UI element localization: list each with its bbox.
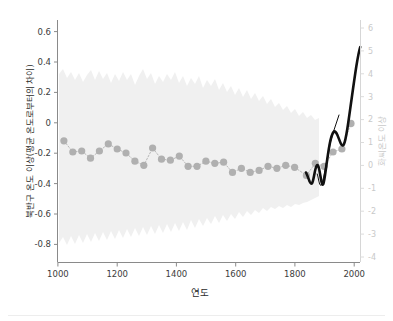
x-tick-label: 1600 (225, 269, 247, 279)
uncertainty-band (59, 69, 319, 245)
x-tick-label: 1200 (106, 269, 128, 279)
y-right-tick-label: 5 (368, 47, 373, 56)
x-axis-title: 연도 (191, 287, 209, 298)
x-tick-label: 1000 (47, 269, 69, 279)
y-right-tick-label: 3 (368, 93, 373, 102)
y-axis-right-title: 화씨온도 이상 (377, 116, 387, 167)
right-axis: 6 5 4 3 2 1 0 -1 -2 -3 -4 (361, 20, 376, 262)
y-right-tick-label: -2 (368, 207, 376, 216)
y-tick-label: 0.4 (37, 57, 51, 67)
y-right-tick-label: -4 (368, 253, 376, 262)
temperature-anomaly-chart: 0.6 0.4 0.2 0 -0.2 -0.4 -0.6 -0.8 1000 1… (0, 0, 393, 321)
bottom-axis: 1000 1200 1400 1600 1800 2000 (47, 263, 365, 280)
y-right-tick-label: 1 (368, 138, 373, 147)
x-tick-label: 1400 (166, 269, 188, 279)
y-tick-label: -0.2 (34, 148, 51, 158)
y-tick-label: 0.2 (37, 87, 51, 97)
y-right-tick-label: 4 (368, 70, 373, 79)
y-right-tick-label: -3 (368, 230, 376, 239)
x-tick-label: 1800 (284, 269, 306, 279)
y-axis-title: 북반구 온도 이상(평균 온도로부터의 차이) (25, 64, 35, 217)
y-right-tick-label: 0 (368, 161, 373, 170)
y-tick-label: -0.4 (34, 179, 51, 189)
y-right-tick-label: 6 (368, 24, 373, 33)
y-tick-label: -0.8 (34, 239, 51, 249)
y-tick-label: 0.6 (37, 27, 51, 37)
y-right-tick-label: 2 (368, 115, 373, 124)
y-tick-label: 0 (46, 118, 51, 128)
y-right-tick-label: -1 (368, 184, 376, 193)
y-tick-label: -0.6 (34, 209, 51, 219)
x-tick-label: 2000 (343, 269, 365, 279)
chart-figure: 0.6 0.4 0.2 0 -0.2 -0.4 -0.6 -0.8 1000 1… (0, 0, 393, 321)
left-axis: 0.6 0.4 0.2 0 -0.2 -0.4 -0.6 -0.8 (34, 20, 57, 262)
